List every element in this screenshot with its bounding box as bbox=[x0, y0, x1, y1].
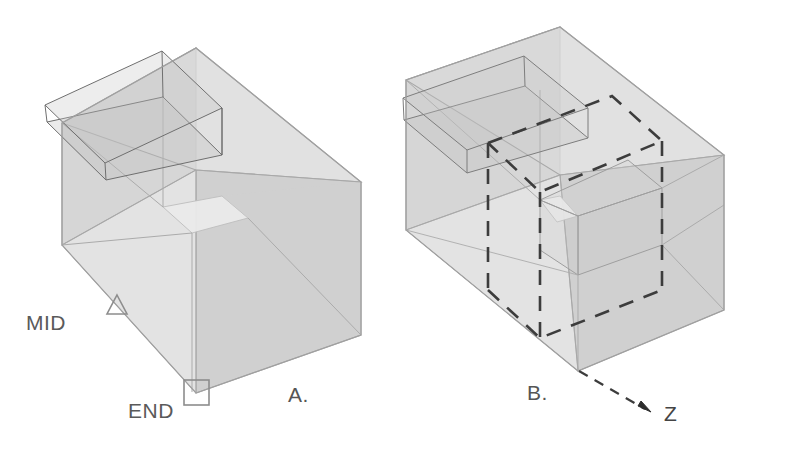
panel-b-notch-edge-1 bbox=[403, 98, 404, 120]
z-axis-arrowhead-icon bbox=[638, 401, 651, 412]
figure-root: MID END A. bbox=[0, 0, 790, 460]
panel-b-group: B. Z bbox=[403, 27, 724, 425]
panel-b-label: B. bbox=[527, 381, 548, 404]
panel-a-notch-edge-1 bbox=[45, 105, 47, 122]
panel-a-label: A. bbox=[288, 383, 309, 406]
mid-marker-label: MID bbox=[26, 311, 66, 334]
z-axis-arrow bbox=[579, 371, 651, 412]
end-marker-label: END bbox=[128, 399, 174, 422]
z-axis-label: Z bbox=[664, 402, 677, 425]
z-axis-dashed-line bbox=[579, 371, 645, 409]
isometric-box-figure: MID END A. bbox=[0, 0, 790, 460]
panel-a-group: MID END A. bbox=[26, 48, 361, 422]
